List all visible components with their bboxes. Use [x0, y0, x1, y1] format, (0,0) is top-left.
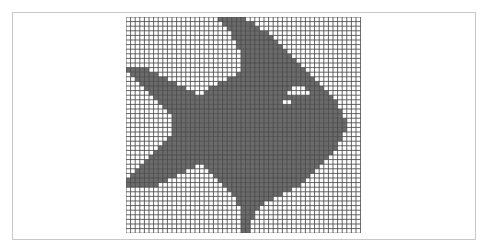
fish-cell-span: [218, 178, 305, 183]
fish-cell-span: [149, 155, 328, 160]
fish-cell-span: [236, 40, 277, 45]
fish-cell-span: [232, 35, 273, 40]
fish-cell-span: [241, 210, 255, 215]
fish-cell-span: [232, 192, 283, 197]
fish-cell-span: [126, 178, 167, 183]
fish-cell-span: [172, 114, 342, 119]
fish-cell-span: [241, 215, 255, 220]
fish-pixel-art: [126, 17, 361, 233]
fish-cell-span: [223, 183, 301, 188]
fish-cell-span: [204, 164, 319, 169]
fish-cell-span: [172, 132, 342, 137]
pixel-grid: [126, 17, 361, 233]
fish-cell-span: [126, 68, 149, 73]
fish-cell-span: [144, 160, 323, 165]
fish-cell-span: [135, 169, 186, 174]
fish-cell-span: [227, 77, 314, 82]
fish-cell-span: [209, 169, 315, 174]
fish-cell-span: [144, 86, 185, 91]
fish-cell-span: [154, 95, 333, 100]
fish-cell-span: [154, 150, 333, 155]
fish-cell-span: [213, 173, 310, 178]
fish-cell-span: [158, 146, 337, 151]
fish-cell-span: [241, 54, 292, 59]
